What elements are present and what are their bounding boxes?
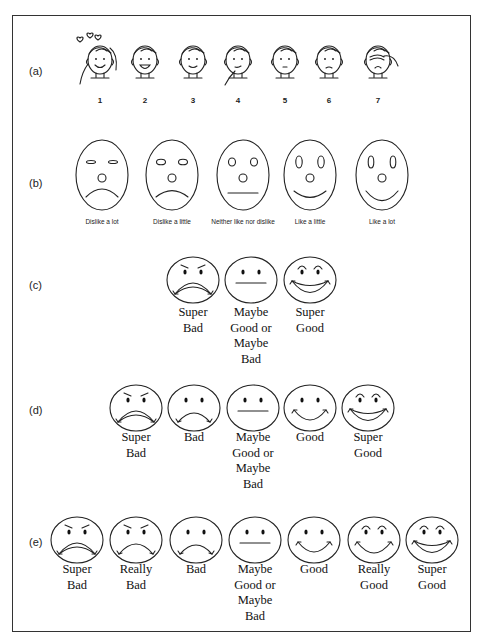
oval-face-1 (76, 140, 128, 210)
oval-face-3 (217, 140, 269, 210)
cartoon-face-3 (180, 46, 207, 78)
cartoon-face-4 (225, 46, 252, 85)
smiley-d-5-super-good (342, 385, 394, 431)
smiley-d-1-super-bad (110, 385, 162, 431)
oval-face-2 (146, 140, 198, 210)
smiley-e-5-good (288, 517, 340, 563)
oval-face-4 (284, 140, 336, 210)
smiley-c-2-neutral (225, 257, 277, 303)
smiley-d-2-bad (168, 385, 220, 431)
cartoon-face-7 (365, 46, 399, 78)
smiley-c-3-super-good (284, 257, 336, 303)
smiley-c-1-super-bad (167, 257, 219, 303)
smiley-e-2-really-bad (110, 517, 162, 563)
cartoon-face-5 (272, 46, 299, 78)
smiley-e-6-really-good (348, 517, 400, 563)
faces-layer (0, 0, 484, 642)
smiley-d-4-good (284, 385, 336, 431)
cartoon-face-1 (77, 33, 116, 84)
smiley-e-1-super-bad (51, 517, 103, 563)
oval-face-5 (356, 140, 408, 210)
cartoon-face-6 (316, 46, 343, 78)
cartoon-face-2 (132, 46, 159, 78)
smiley-d-3-neutral (227, 385, 279, 431)
smiley-e-3-bad (170, 517, 222, 563)
smiley-e-7-super-good (406, 517, 458, 563)
smiley-e-4-neutral (229, 517, 281, 563)
